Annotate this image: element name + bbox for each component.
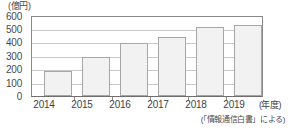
y-tick-text: 400 xyxy=(6,38,22,48)
bar-chart: (億円) 600 500 400 300 200 100 0 2014 2015… xyxy=(0,0,288,129)
y-axis-unit-label: (億円) xyxy=(8,1,31,11)
plot-area xyxy=(31,16,263,97)
y-tick-text: 100 xyxy=(6,79,22,89)
y-tick-label-500: 500 xyxy=(0,25,22,35)
y-tick-label-400: 400 xyxy=(0,38,22,48)
x-tick-label-2019: 2019 xyxy=(212,99,256,111)
bar-2016 xyxy=(120,43,148,96)
bar-2015 xyxy=(82,57,110,96)
source-note: (「情報通信白書」による) xyxy=(201,115,285,125)
bar-2014 xyxy=(44,71,72,96)
x-axis-unit-label: (年度) xyxy=(259,100,281,111)
y-tick-text: 300 xyxy=(6,52,22,62)
bar-series xyxy=(32,17,262,96)
y-tick-label-600: 600 xyxy=(0,12,22,22)
y-tick-text: 600 xyxy=(6,12,22,22)
y-tick-label-100: 100 xyxy=(0,79,22,89)
bar-2018 xyxy=(196,27,224,96)
y-tick-label-300: 300 xyxy=(0,52,22,62)
y-tick-text: 500 xyxy=(6,25,22,35)
y-tick-label-200: 200 xyxy=(0,65,22,75)
x-axis-labels: 2014 2015 2016 2017 2018 2019 xyxy=(0,99,288,113)
bar-2019 xyxy=(234,25,262,96)
bar-2017 xyxy=(158,37,186,96)
y-tick-text: 200 xyxy=(6,65,22,75)
